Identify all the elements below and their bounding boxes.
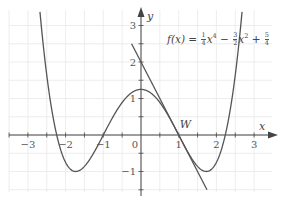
x-tick-label: 2 xyxy=(213,139,219,150)
inflection-point-w-label: W xyxy=(180,118,193,131)
y-tick-label: −1 xyxy=(121,166,136,177)
fraction-2: 32 xyxy=(233,32,237,47)
y-axis-arrow-icon xyxy=(138,7,145,17)
x-tick-label: 1 xyxy=(176,139,182,150)
y-tick-label: 3 xyxy=(130,20,136,31)
fraction-3: 54 xyxy=(265,32,269,47)
y-axis-label: y xyxy=(146,10,154,23)
x-tick-label: 3 xyxy=(251,139,257,150)
x-axis-arrow-icon xyxy=(268,132,278,139)
origin-label: 0 xyxy=(132,139,138,150)
fraction-1: 14 xyxy=(201,32,205,47)
x-axis-label: x xyxy=(259,120,266,133)
y-tick-label: 1 xyxy=(130,93,136,104)
formula-lhs: f(x) = xyxy=(167,33,200,45)
y-tick-label: 2 xyxy=(130,57,136,68)
x-tick-label: −1 xyxy=(96,139,111,150)
x-tick-label: −2 xyxy=(58,139,73,150)
function-graph: −3−2−11230321−1xyW xyxy=(0,0,282,203)
x-tick-label: −3 xyxy=(21,139,36,150)
function-formula: f(x) = 14x4 − 32x2 + 54 xyxy=(167,32,270,47)
